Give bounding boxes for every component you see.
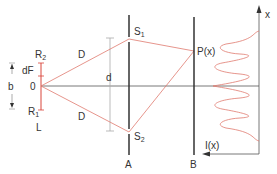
label-intensity: I(x) xyxy=(205,140,219,151)
b-arrow-up-icon xyxy=(10,64,14,69)
label-d-lower: D xyxy=(78,111,85,122)
label-b: b xyxy=(8,81,14,92)
label-r1: R1 xyxy=(28,106,39,118)
label-slit-separation: d xyxy=(106,72,112,83)
label-d-upper: D xyxy=(78,49,85,60)
intensity-axis-arrow-icon xyxy=(202,152,210,157)
label-df: dF xyxy=(22,65,34,76)
label-x-axis: x xyxy=(265,9,270,20)
label-a: A xyxy=(125,159,132,170)
label-s1: S1 xyxy=(134,26,145,38)
ray-lower xyxy=(41,51,194,132)
ray-upper xyxy=(41,39,194,86)
label-s2: S2 xyxy=(134,131,145,143)
label-point: P(x) xyxy=(197,46,215,57)
double-slit-diagram: R2 dF b 0 R1 L D D d S1 S2 A B P(x) x I(… xyxy=(0,0,277,174)
b-arrow-down-icon xyxy=(10,103,14,108)
x-axis-arrow-icon xyxy=(257,5,262,13)
label-origin: 0 xyxy=(30,81,36,92)
label-r2: R2 xyxy=(35,49,46,61)
label-b-screen: B xyxy=(190,159,197,170)
label-l: L xyxy=(36,122,42,133)
